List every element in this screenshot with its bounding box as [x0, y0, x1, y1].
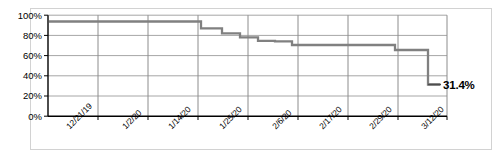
y-axis-label-20: 20%: [2, 91, 42, 101]
y-axis-label-80: 80%: [2, 31, 42, 41]
y-axis-label-40: 40%: [2, 71, 42, 81]
chart-plot-area: [0, 0, 500, 167]
data-series-step-line: [49, 22, 440, 85]
y-axis-label-100: 100%: [2, 11, 42, 21]
chart-container: 100% 80% 60% 40% 20% 0% 12/21/19 1/2/20 …: [0, 0, 500, 167]
y-axis-label-60: 60%: [2, 51, 42, 61]
end-value-annotation: 31.4%: [443, 79, 475, 91]
y-axis-label-0: 0%: [2, 112, 42, 122]
vertical-gridlines: [98, 15, 447, 116]
